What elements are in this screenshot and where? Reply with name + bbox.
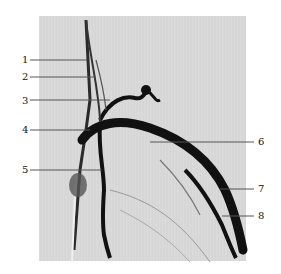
label-3: 3	[22, 96, 28, 106]
angiogram-figure: 1 2 3 4 5 6 7 8	[0, 0, 281, 274]
label-7: 7	[258, 184, 264, 194]
leader-lines	[30, 60, 254, 216]
label-6: 6	[258, 137, 264, 147]
vessel-drawing	[0, 0, 281, 274]
label-1: 1	[22, 55, 28, 65]
label-2: 2	[22, 72, 28, 82]
label-4: 4	[22, 125, 28, 135]
label-5: 5	[22, 165, 28, 175]
label-8: 8	[258, 211, 264, 221]
